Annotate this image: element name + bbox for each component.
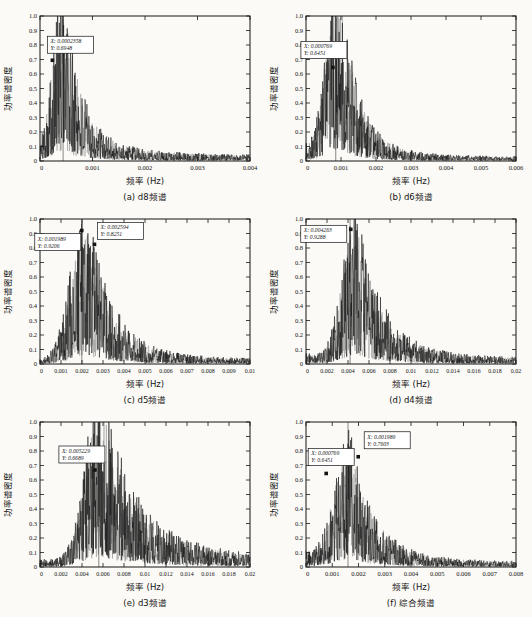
- x-tick-label: 0.002: [369, 164, 384, 171]
- spectra-figure-grid: 功率谱密度 00.0010.0020.0030.00400.10.20.30.4…: [0, 0, 532, 617]
- datatip-marker: [356, 455, 360, 459]
- x-axis-title: 频率 (Hz): [126, 176, 164, 186]
- y-axis-title: 功率谱密度: [269, 472, 279, 517]
- y-axis-title: 功率谱密度: [3, 66, 13, 111]
- x-tick-label: 0: [40, 164, 43, 171]
- datatip-x-value: X: 0.004263: [303, 227, 332, 233]
- datatip-marker: [93, 243, 97, 247]
- y-tick-label: 1.0: [29, 12, 37, 19]
- x-tick-label: 0.004: [117, 368, 130, 374]
- subplot-c-canvas: 功率谱密度 00.0010.0020.0030.0040.0050.0060.0…: [0, 209, 266, 412]
- subplot-a-canvas: 功率谱密度 00.0010.0020.0030.00400.10.20.30.4…: [0, 6, 266, 209]
- y-tick-label: 0.8: [295, 244, 303, 251]
- datatip-marker: [324, 472, 328, 476]
- subplot-caption: (d) d4频谱: [389, 395, 433, 405]
- x-tick-label: 0.008: [509, 570, 524, 577]
- x-tick-label: 0.02: [511, 368, 521, 374]
- y-tick-label: 0.2: [29, 331, 37, 338]
- y-tick-label: 0.2: [295, 534, 303, 541]
- datatip-y-value: Y: 0.9288: [304, 234, 326, 240]
- x-tick-label: 0.009: [222, 368, 235, 374]
- y-tick-label: 0: [34, 563, 37, 570]
- y-tick-label: 0.6: [29, 273, 38, 280]
- y-tick-label: 0.8: [29, 447, 37, 454]
- y-tick-label: 0.1: [29, 143, 37, 150]
- y-tick-label: 0.5: [29, 491, 37, 498]
- datatip-y-value: Y: 0.6948: [50, 45, 72, 51]
- x-tick-label: 0.002: [320, 368, 333, 374]
- datatip-x-value: X: 0.005229: [61, 448, 90, 454]
- x-tick-label: 0.001: [54, 368, 67, 374]
- y-tick-label: 0.9: [29, 433, 37, 440]
- plot-area: 00.0020.0040.0060.0080.010.0120.0140.016…: [295, 215, 521, 374]
- y-tick-label: 0.4: [295, 505, 304, 512]
- subplot-e-d3-spectrum: 功率谱密度 00.0020.0040.0060.0080.010.0120.01…: [0, 412, 266, 615]
- y-tick-label: 0.4: [295, 302, 304, 309]
- datatip-x-value: X: 0.001989: [366, 434, 395, 440]
- y-tick-label: 0.8: [29, 41, 37, 48]
- y-tick-label: 0.9: [295, 433, 303, 440]
- x-tick-label: 0.005: [138, 368, 151, 374]
- datatip-marker: [331, 66, 335, 70]
- y-axis-title: 功率谱密度: [269, 66, 279, 111]
- x-tick-label: 0.004: [439, 164, 454, 171]
- x-tick-label: 0.008: [117, 571, 130, 577]
- x-tick-label: 0.004: [341, 368, 354, 374]
- x-axis-title: 频率 (Hz): [392, 176, 430, 186]
- y-axis-title: 功率谱密度: [269, 269, 279, 314]
- subplot-b-d6-spectrum: 功率谱密度 00.0010.0020.0030.0040.0050.00600.…: [266, 6, 532, 209]
- plot-area: 00.0010.0020.0030.0040.0050.00600.10.20.…: [295, 12, 524, 171]
- datatip-x-value: X: 0.000769: [303, 43, 332, 49]
- subplot-f-canvas: 功率谱密度 00.0010.0020.0030.0040.0050.0060.0…: [266, 412, 532, 615]
- y-tick-label: 0.1: [29, 549, 37, 556]
- datatip-marker: [51, 58, 55, 62]
- subplot-caption: (b) d6频谱: [389, 192, 433, 202]
- subplot-caption: (c) d5频谱: [124, 395, 167, 405]
- datatip-x-value: X: 0.002594: [99, 224, 128, 230]
- x-tick-label: 0.002: [54, 571, 67, 577]
- x-tick-label: 0.002: [75, 368, 88, 374]
- x-tick-label: 0.003: [404, 164, 419, 171]
- subplot-b-canvas: 功率谱密度 00.0010.0020.0030.0040.0050.00600.…: [266, 6, 532, 209]
- subplot-caption: (e) d3频谱: [123, 598, 166, 608]
- x-tick-label: 0.001: [334, 164, 349, 171]
- x-tick-label: 0.008: [383, 368, 396, 374]
- x-axis-title: 频率 (Hz): [392, 379, 430, 389]
- x-tick-label: 0.014: [180, 571, 193, 577]
- y-tick-label: 0.6: [29, 476, 38, 483]
- datatip-x-value: X: 0.001989: [37, 236, 66, 242]
- y-tick-label: 0.7: [29, 259, 38, 266]
- x-tick-label: 0.014: [446, 368, 459, 374]
- x-tick-label: 0.005: [430, 570, 445, 577]
- subplot-d-canvas: 功率谱密度 00.0020.0040.0060.0080.010.0120.01…: [266, 209, 532, 412]
- x-tick-label: 0.01: [140, 571, 150, 577]
- y-tick-label: 0.5: [29, 85, 37, 92]
- subplot-e-canvas: 功率谱密度 00.0020.0040.0060.0080.010.0120.01…: [0, 412, 266, 615]
- y-tick-label: 0.9: [295, 27, 303, 34]
- y-tick-label: 0.8: [295, 447, 303, 454]
- y-tick-label: 1.0: [295, 418, 303, 425]
- y-tick-label: 0.7: [29, 462, 38, 469]
- x-tick-label: 0.01: [245, 368, 255, 374]
- y-tick-label: 0.1: [295, 346, 303, 353]
- y-tick-label: 0.7: [295, 462, 304, 469]
- y-tick-label: 0: [34, 157, 37, 164]
- x-tick-label: 0.018: [488, 368, 501, 374]
- y-tick-label: 0.5: [29, 288, 37, 295]
- y-tick-label: 0.4: [29, 302, 38, 309]
- y-tick-label: 1.0: [29, 215, 37, 222]
- x-tick-label: 0.007: [482, 570, 497, 577]
- y-tick-label: 0.1: [295, 549, 303, 556]
- y-tick-label: 0.3: [29, 114, 37, 121]
- x-tick-label: 0.012: [425, 368, 438, 374]
- x-tick-label: 0.012: [159, 571, 172, 577]
- subplot-f-composite-spectrum: 功率谱密度 00.0010.0020.0030.0040.0050.0060.0…: [266, 412, 532, 615]
- x-tick-label: 0.003: [190, 164, 205, 171]
- datatip-marker: [93, 468, 97, 472]
- x-tick-label: 0.007: [180, 368, 193, 374]
- y-axis-title: 功率谱密度: [3, 472, 13, 517]
- y-tick-label: 1.0: [29, 418, 37, 425]
- x-tick-label: 0.008: [201, 368, 214, 374]
- x-tick-label: 0: [40, 368, 43, 374]
- x-axis-title: 频率 (Hz): [392, 582, 430, 592]
